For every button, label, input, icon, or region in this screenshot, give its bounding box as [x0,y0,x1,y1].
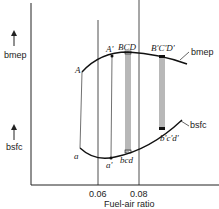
point-A: A [74,65,81,75]
point-bcd: bcd [120,155,133,165]
point-BCD: BCD [118,42,137,52]
point-bcd-prime: b'c'd' [160,133,180,143]
x-tick-0.06: 0.06 [89,189,107,199]
y-label-bmep: bmep [4,50,27,60]
y-label-bsfc: bsfc [6,142,23,152]
y-arrow-bsfc [11,124,17,140]
curve-label-bsfc: bsfc [190,120,207,130]
fuel-air-ratio-diagram: bmep bsfc bmep bsfc A A' BCD B'C'D' a a'… [0,0,219,209]
bsfc-leader [181,121,189,126]
bmep-leader [180,52,189,60]
y-arrow-bmep [11,30,17,46]
curve-label-bmep: bmep [191,47,214,57]
point-BCD-prime: B'C'D' [151,43,176,53]
point-a-prime: a' [106,160,114,170]
point-a: a [74,151,79,161]
x-axis-title: Fuel-air ratio [104,199,155,209]
point-A-prime: A' [105,44,114,54]
x-tick-0.08: 0.08 [130,189,148,199]
curve-markers [110,51,166,160]
